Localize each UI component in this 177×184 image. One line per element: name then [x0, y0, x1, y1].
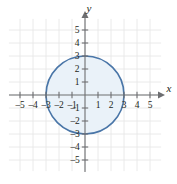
x-tick-label: 4 — [135, 100, 140, 110]
x-tick-label: 5 — [148, 100, 153, 110]
x-tick-label: –2 — [53, 100, 64, 110]
y-tick-label: 2 — [75, 64, 80, 74]
x-tick-label: –3 — [40, 100, 51, 110]
x-tick-label: –5 — [14, 100, 25, 110]
x-tick-label: –4 — [27, 100, 38, 110]
x-tick-label: 3 — [122, 100, 127, 110]
x-axis-label: x — [166, 82, 172, 94]
y-tick-label: –3 — [69, 129, 80, 139]
y-axis-label: y — [86, 2, 92, 14]
coordinate-plane-figure: –5–4–3–2–11234554321–1–2–3–4–5 x y — [0, 0, 177, 184]
y-tick-label: –4 — [69, 142, 80, 152]
y-tick-label: 3 — [75, 51, 80, 61]
y-tick-label: 1 — [75, 77, 80, 87]
y-tick-label: 5 — [75, 25, 80, 35]
y-tick-label: –5 — [69, 155, 80, 165]
x-tick-label: 2 — [109, 100, 114, 110]
circle-graph-svg: –5–4–3–2–11234554321–1–2–3–4–5 x y — [0, 0, 177, 184]
y-tick-label: 4 — [75, 38, 80, 48]
x-tick-label: 1 — [96, 100, 101, 110]
y-tick-label: –2 — [69, 116, 80, 126]
y-tick-label: –1 — [69, 103, 80, 113]
